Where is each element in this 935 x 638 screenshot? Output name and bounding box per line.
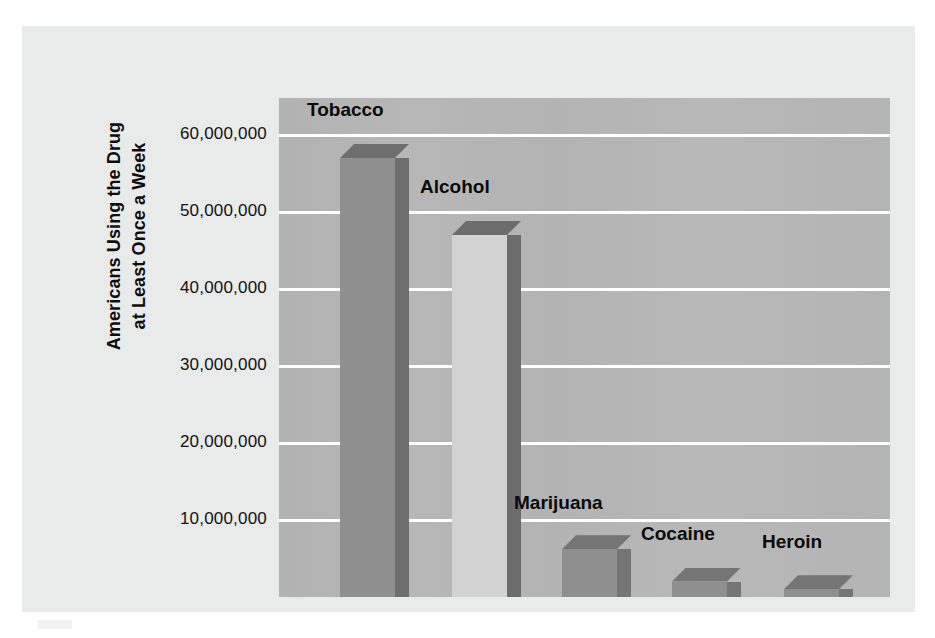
bar-front [340,158,395,597]
bar-top-face-shape [672,568,741,582]
bar-side-face [507,235,521,597]
y-axis-tick-label: 60,000,000 [117,124,267,144]
bar-top-face-shape [562,535,631,549]
y-axis-tick-label: 50,000,000 [117,201,267,221]
plot-area [279,98,890,597]
bar-top-face-shape [340,144,409,158]
bar-top-face-shape [452,221,521,235]
y-axis-tick-label: 30,000,000 [117,355,267,375]
bar-side-face [727,582,741,597]
bar-label-alcohol: Alcohol [420,176,490,198]
bar-heroin[interactable] [784,575,853,597]
bar-front [672,582,727,597]
bar-tobacco[interactable] [340,144,409,597]
bar-front [562,549,617,597]
bar-alcohol[interactable] [452,221,521,597]
bar-cocaine[interactable] [672,568,741,597]
y-axis-tick-labels: 60,000,00050,000,00040,000,00030,000,000… [117,98,267,597]
bar-label-tobacco: Tobacco [307,99,384,121]
gridline [279,134,890,137]
bar-label-marijuana: Marijuana [514,492,603,514]
y-axis-tick-label: 40,000,000 [117,278,267,298]
bar-front [452,235,507,597]
bar-side-face [395,158,409,597]
bar-label-heroin: Heroin [762,531,822,553]
chart-page: Americans Using the Drug at Least Once a… [0,0,935,638]
bar-side-face [617,549,631,597]
bar-top-face-shape [784,575,853,589]
bar-marijuana[interactable] [562,535,631,597]
y-axis-tick-label: 10,000,000 [117,509,267,529]
bar-front [784,589,839,597]
corner-mark [38,620,72,629]
chart-panel: Americans Using the Drug at Least Once a… [22,26,915,612]
bar-label-cocaine: Cocaine [641,523,715,545]
bar-side-face [839,589,853,597]
y-axis-tick-label: 20,000,000 [117,432,267,452]
